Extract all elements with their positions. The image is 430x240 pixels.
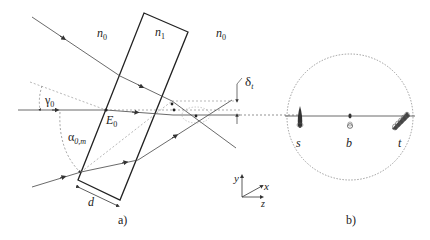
diagram-canvas: n0 n1 n0 γ0 α0,m E0 d δt a) y x z [0,0,430,240]
label-b: b [346,136,352,150]
label-delta-t: δt [245,74,254,91]
label-n1: n1 [155,25,165,41]
label-alpha: α0,m [68,130,86,146]
label-d: d [88,195,95,209]
upper-ray [32,17,120,76]
lower-ray [32,172,81,187]
panel-a: n0 n1 n0 γ0 α0,m E0 d δt a) [18,13,300,227]
caption-b: b) [346,213,356,227]
axis-label-y: y [233,172,239,184]
axis-label-z: z [260,198,265,209]
caption-a: a) [118,213,127,227]
label-t: t [398,136,402,150]
spot-t [392,112,410,130]
label-s: s [296,136,301,150]
gamma-arc [39,86,42,110]
spot-s [297,106,303,128]
slab [78,13,188,200]
label-gamma: γ0 [44,93,54,109]
gamma-reference-line [30,82,106,110]
label-E0: E0 [105,113,117,129]
label-n0-right: n0 [216,26,226,42]
axis-label-x: x [263,180,269,192]
panel-b: s b t b) [285,54,415,227]
coordinate-axes: y x z [233,172,269,209]
label-n0-left: n0 [97,26,107,42]
